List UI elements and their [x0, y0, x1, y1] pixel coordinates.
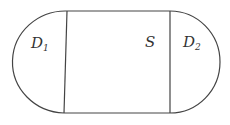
label-d1: D1	[30, 34, 49, 53]
right-semicircle	[170, 11, 220, 113]
left-semicircle	[12, 11, 67, 113]
left-divider	[64, 11, 67, 113]
stadium-diagram: D1 S D2	[0, 0, 230, 125]
label-d2: D2	[182, 33, 201, 52]
label-s: S	[145, 33, 155, 51]
